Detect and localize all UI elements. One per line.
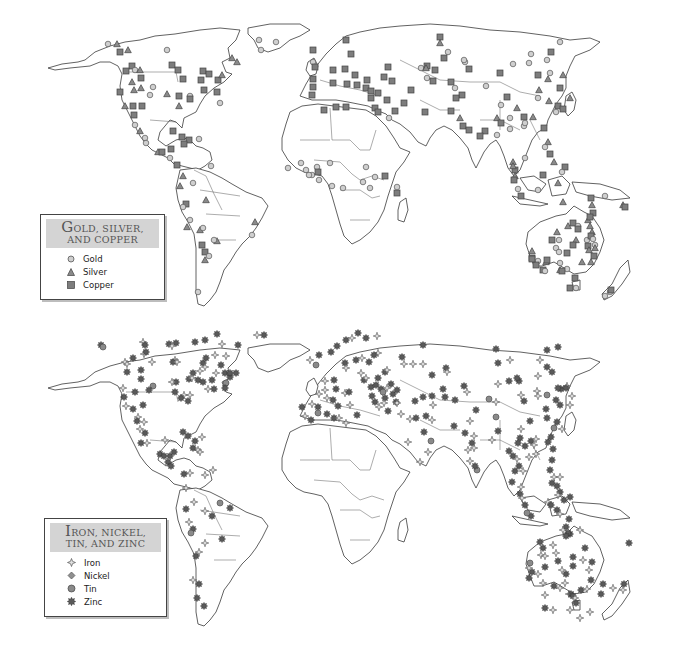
circle-deposit-marker [372,174,378,180]
zinc-deposit-marker [199,378,206,385]
zinc-deposit-marker [565,515,572,522]
square-deposit-marker [169,62,175,68]
zinc-deposit-marker [298,403,305,410]
zinc-deposit-marker [492,345,499,352]
zinc-deposit-marker [513,374,520,381]
circle-deposit-marker [556,249,562,255]
zinc-deposit-marker [193,594,200,601]
tin-deposit-marker [315,410,321,416]
zinc-deposit-marker [217,361,224,368]
square-deposit-marker [199,242,205,248]
zinc-deposit-marker [232,369,239,376]
square-deposit-marker [321,107,327,113]
zinc-deposit-marker [472,406,479,413]
circle-deposit-marker [249,232,255,238]
circle-deposit-marker [316,177,322,183]
circle-deposit-marker [303,167,309,173]
circle-deposit-marker [208,163,214,169]
zinc-deposit-marker [562,532,569,539]
circle-deposit-marker [461,57,467,63]
square-deposit-marker [466,66,472,72]
zinc-deposit-marker [536,538,543,545]
square-deposit-marker [200,68,206,74]
zinc-deposit-marker [221,384,228,391]
triangle-deposit-marker [545,139,552,145]
circle-deposit-marker [602,193,608,199]
legend-items: Iron Nickel Tin Zinc [45,556,166,608]
zinc-deposit-marker [549,445,556,452]
zinc-deposit-marker [170,448,177,455]
zinc-deposit-marker [208,512,215,519]
zinc-deposit-marker [208,376,215,383]
tin-deposit-marker [493,414,499,420]
circle-deposit-marker [498,102,504,108]
legend-item-zinc: Zinc [67,595,166,608]
legend-item-gold: Gold [67,252,164,265]
legend-item-iron: Iron [67,556,166,569]
zinc-deposit-marker [461,429,468,436]
square-deposit-marker [138,75,144,81]
circle-deposit-marker [256,37,262,43]
square-deposit-marker [504,94,510,100]
square-deposit-marker [572,275,578,281]
nickel-diamond-icon [67,571,76,580]
zinc-deposit-marker [171,388,178,395]
square-deposit-marker [466,127,472,133]
zinc-deposit-marker [526,417,533,424]
square-deposit-marker [401,100,407,106]
triangle-deposit-marker [551,159,558,165]
zinc-deposit-marker [511,467,518,474]
square-deposit-marker [352,72,358,78]
circle-deposit-marker [258,47,264,53]
tin-deposit-marker [486,396,492,402]
zinc-deposit-marker [315,351,322,358]
circle-deposit-marker [190,180,196,186]
zinc-deposit-marker [548,368,555,375]
iron-deposit-marker [566,401,574,409]
zinc-deposit-marker [412,414,419,421]
zinc-deposit-marker [371,398,378,405]
zinc-deposit-marker [572,599,579,606]
zinc-deposit-marker [560,496,567,503]
square-deposit-marker [588,195,594,201]
square-deposit-marker [381,74,387,80]
zinc-deposit-marker [625,539,632,546]
square-deposit-marker [348,51,354,57]
iron-deposit-marker [576,614,584,622]
square-deposit-marker [181,141,187,147]
square-deposit-marker [310,47,316,53]
gold-silver-copper-legend: GOLD, SILVER, AND COPPER Gold Silver Cop… [40,214,165,300]
zinc-deposit-marker [620,580,627,587]
zinc-deposit-marker [428,392,435,399]
tin-deposit-marker [524,510,530,516]
square-deposit-marker [310,76,316,82]
zinc-deposit-marker [554,557,561,564]
square-deposit-marker [382,173,388,179]
legend-item-silver: Silver [67,265,164,278]
zinc-deposit-marker [131,388,138,395]
circle-deposit-marker [557,39,563,45]
square-deposit-marker [432,67,438,73]
circle-deposit-marker [180,204,186,210]
tin-deposit-marker [100,344,106,350]
iron-deposit-marker [253,331,261,339]
square-deposit-marker [309,92,315,98]
square-deposit-marker [549,237,555,243]
zinc-deposit-marker [370,351,377,358]
circle-deposit-marker [105,41,111,47]
square-deposit-marker [201,87,207,93]
circle-deposit-marker [553,109,559,115]
circle-deposit-marker [590,236,596,242]
zinc-deposit-marker [141,341,148,348]
circle-deposit-marker [132,122,138,128]
tin-deposit-marker [223,380,229,386]
square-deposit-marker [180,76,186,82]
zinc-deposit-marker [353,411,360,418]
square-deposit-marker [511,177,517,183]
iron-deposit-marker [568,392,576,400]
square-deposit-marker [368,88,374,94]
circle-deposit-marker [507,126,513,132]
zinc-deposit-marker [180,470,187,477]
zinc-deposit-marker [550,582,557,589]
iron-deposit-marker [566,606,574,614]
